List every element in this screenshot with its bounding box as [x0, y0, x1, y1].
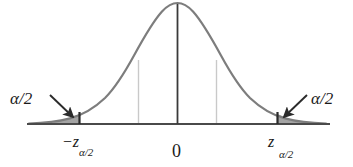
- distribution-chart-svg: α/2 α/2 0 −z α/2 z α/2: [0, 0, 353, 167]
- left-critical-value-subscript: α/2: [79, 146, 94, 158]
- right-alpha-label: α/2: [311, 89, 334, 108]
- left-alpha-label: α/2: [10, 89, 33, 108]
- center-tick-label: 0: [172, 141, 181, 161]
- normal-curve-figure: α/2 α/2 0 −z α/2 z α/2: [0, 0, 353, 167]
- right-alpha-arrow-icon: [284, 95, 307, 117]
- left-critical-value-label: −z: [62, 133, 80, 150]
- left-alpha-arrow-icon: [50, 95, 73, 117]
- right-critical-value-label: z: [267, 133, 275, 150]
- right-critical-value-subscript: α/2: [279, 148, 294, 160]
